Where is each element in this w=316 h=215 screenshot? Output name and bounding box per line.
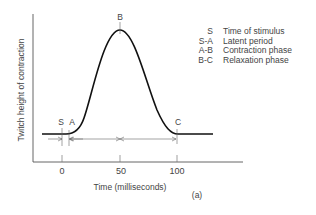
point-c-label: C (175, 117, 181, 127)
legend-key: B-C (186, 56, 223, 66)
legend: S Time of stimulus S-A Latent period A-B… (186, 27, 292, 65)
point-b-label: B (117, 12, 123, 22)
muscle-twitch-diagram: 0 50 100 Time (milliseconds) Twitch heig… (0, 0, 316, 215)
y-axis-label: Twitch height of contraction (16, 38, 26, 141)
x-axis-label: Time (milliseconds) (94, 182, 167, 192)
panel-label: (a) (192, 190, 203, 200)
legend-description: Relaxation phase (223, 56, 289, 66)
point-a-label: A (69, 117, 75, 127)
phase-duration-arrows (70, 137, 176, 141)
point-s-label: S (58, 117, 64, 127)
x-tick-label-100: 100 (169, 166, 184, 176)
x-tick-label-0: 0 (59, 166, 64, 176)
x-tick-label-50: 50 (116, 166, 126, 176)
legend-item-b-c: B-C Relaxation phase (186, 56, 292, 66)
